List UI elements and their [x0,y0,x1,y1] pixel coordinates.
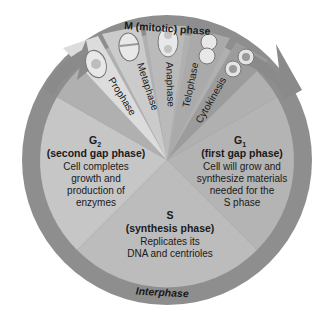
g2-line-2: growth and [71,173,120,184]
g1-name: G [234,134,242,146]
g1-subtitle: (first gap phase) [201,147,283,159]
g1-line-1: Cell will grow and [203,161,281,172]
g2-subtitle: (second gap phase) [47,147,146,159]
s-name: S [166,209,173,221]
g2-line-1: Cell completes [63,161,129,172]
label-anaphase: Anaphase [164,62,177,108]
g2-name: G [89,134,97,146]
s-subtitle: (synthesis phase) [126,222,215,234]
cell-cycle-diagram: M (mitotic) phase Prophase Metaphase Ana… [0,0,332,318]
g1-line-3: needed for the [210,185,275,196]
g2-line-3: production of [67,185,125,196]
g2-line-4: enzymes [76,197,116,208]
s-line-2: DNA and centrioles [127,248,213,259]
g1-line-4: S phase [224,197,261,208]
g1-line-2: synthesize materials [197,173,288,184]
s-line-1: Replicates its [140,236,199,247]
